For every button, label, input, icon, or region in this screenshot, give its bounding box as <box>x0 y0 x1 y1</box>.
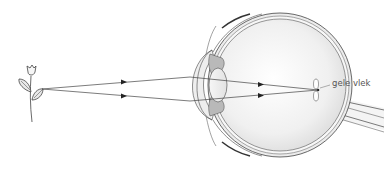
flower-leaf-left <box>19 79 31 92</box>
arrow-icon <box>121 80 127 85</box>
eye-diagram <box>0 0 384 170</box>
macula-label: gele vlek <box>332 79 370 88</box>
flower-icon <box>19 65 43 122</box>
retina <box>214 19 346 151</box>
arrow-icon <box>121 94 127 99</box>
ray-arrows-outside <box>121 80 127 99</box>
ray-lower-outside <box>42 89 190 101</box>
flower-bud <box>27 65 36 75</box>
ray-upper-outside <box>42 77 190 89</box>
flower-stem <box>30 76 32 122</box>
lens <box>209 68 227 102</box>
light-rays <box>42 77 190 101</box>
